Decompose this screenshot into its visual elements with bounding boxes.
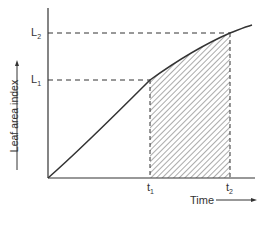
hatched-area	[150, 30, 230, 178]
l2-tick-label: L2	[31, 26, 41, 40]
l1-tick-label: L1	[31, 73, 41, 87]
x-arrowhead-icon	[251, 198, 257, 202]
t1-tick-label: t1	[147, 181, 154, 195]
x-axis-label: Time	[190, 194, 214, 206]
y-axis-label: Leaf area index	[6, 62, 20, 172]
t2-tick-label: t2	[226, 181, 233, 195]
